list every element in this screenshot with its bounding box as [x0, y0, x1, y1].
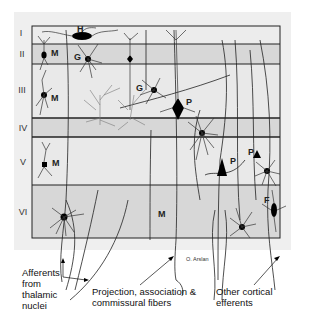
layer-label-V: V — [20, 157, 26, 167]
cell-label-martinotti-III: M — [51, 93, 59, 103]
layer-label-III: III — [18, 85, 26, 95]
svg-text:Other cortical: Other cortical — [216, 286, 273, 297]
layer-band-VI — [32, 185, 280, 238]
layer-bands — [32, 26, 280, 238]
cell-label-pyramidal-V-large: P — [230, 156, 236, 166]
caption-projection: Projection, association & commissural fi… — [92, 286, 197, 308]
layer-label-I: I — [20, 28, 23, 38]
annotation-arrows — [61, 256, 280, 285]
cell-label-granule-II: G — [74, 52, 81, 62]
cell-label-pyramidal-V-small: P — [248, 147, 254, 157]
caption-afferents: Afferents from thalamic nuclei — [22, 267, 60, 311]
layer-band-IV — [32, 118, 280, 137]
layer-band-V — [32, 137, 280, 185]
cell-label-martinotti-VI: M — [158, 209, 166, 219]
svg-text:efferents: efferents — [216, 297, 253, 308]
layer-band-I — [32, 26, 280, 44]
cell-label-martinotti-V: M — [52, 158, 60, 168]
caption-efferents: Other cortical efferents — [216, 286, 273, 308]
credit-text: O. Arslan — [186, 256, 209, 262]
svg-text:Projection, association &: Projection, association & — [92, 286, 197, 297]
cell-label-martinotti-II: M — [51, 48, 59, 58]
svg-text:commissural fibers: commissural fibers — [92, 297, 171, 308]
cell-label-granule-III: G — [136, 83, 143, 93]
cell-label-fusiform-VI: F — [264, 195, 270, 205]
svg-text:from: from — [22, 278, 41, 289]
cell-label-pyramidal-III: P — [186, 97, 192, 107]
svg-text:thalamic: thalamic — [22, 289, 58, 300]
layer-band-II — [32, 44, 280, 64]
cortical-layers-diagram: I II III IV V VI — [0, 0, 314, 317]
layer-label-IV: IV — [19, 123, 28, 133]
svg-text:nuclei: nuclei — [22, 300, 47, 311]
svg-text:Afferents: Afferents — [22, 267, 60, 278]
layer-label-II: II — [19, 49, 24, 59]
cell-label-horizontal: H — [77, 24, 84, 34]
layer-label-VI: VI — [19, 207, 28, 217]
